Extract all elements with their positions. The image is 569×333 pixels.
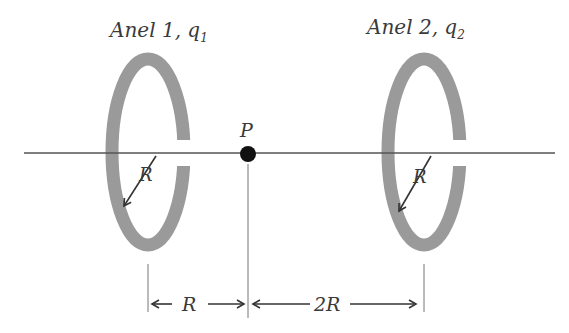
point-p — [240, 146, 256, 162]
ring-2-label: Anel 2, q2 — [365, 15, 465, 42]
ring-1-label: Anel 1, q1 — [108, 18, 208, 45]
dim-label-R: R — [181, 293, 196, 315]
point-p-label: P — [239, 119, 254, 141]
ring-1-radius-label: R — [138, 164, 153, 185]
ring-2-radius-label: R — [412, 166, 427, 187]
ring-2 — [388, 59, 472, 245]
ring-1 — [112, 59, 196, 245]
dim-label-2R: 2R — [313, 293, 340, 315]
two-rings-diagram: Anel 1, q1 Anel 2, q2 P R R R 2R — [0, 0, 569, 333]
